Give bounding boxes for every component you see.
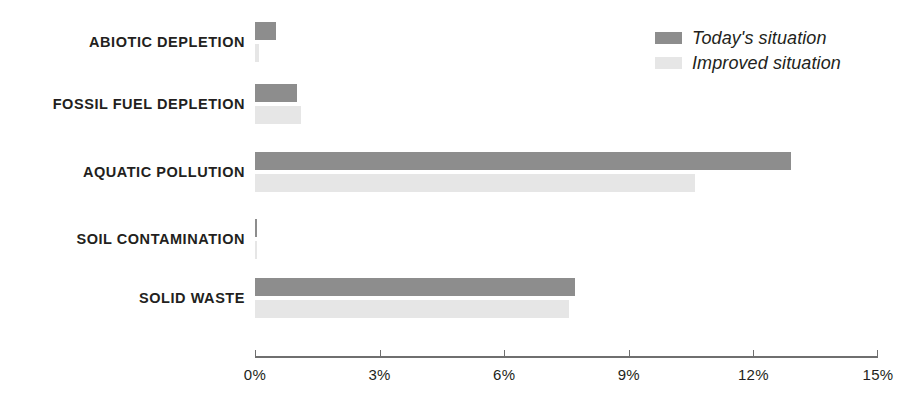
axis-tick (255, 350, 256, 358)
bar-group (255, 22, 276, 62)
axis-tick-label: 9% (618, 366, 640, 383)
bar-today[interactable] (255, 152, 791, 170)
chart-category-row: SOLID WASTE (0, 278, 910, 318)
chart-category-row: FOSSIL FUEL DEPLETION (0, 84, 910, 124)
axis-tick-label: 0% (244, 366, 266, 383)
bar-group (255, 219, 257, 259)
legend-swatch-icon (655, 32, 682, 44)
bar-improved[interactable] (255, 300, 569, 318)
bar-improved[interactable] (255, 241, 257, 259)
legend-item[interactable]: Improved situation (655, 55, 841, 71)
bar-improved[interactable] (255, 174, 695, 192)
bar-group (255, 152, 791, 192)
category-label: ABIOTIC DEPLETION (0, 34, 245, 50)
axis-tick-label: 15% (863, 366, 894, 383)
legend-item-label: Improved situation (692, 54, 841, 72)
category-label: FOSSIL FUEL DEPLETION (0, 96, 245, 112)
category-label: SOLID WASTE (0, 290, 245, 306)
axis-tick-label: 12% (738, 366, 769, 383)
bar-group (255, 84, 301, 124)
chart-legend: Today's situationImproved situation (655, 30, 841, 71)
bar-improved[interactable] (255, 106, 301, 124)
bar-today[interactable] (255, 84, 297, 102)
chart-category-row: AQUATIC POLLUTION (0, 152, 910, 192)
bar-today[interactable] (255, 219, 257, 237)
axis-tick (380, 350, 381, 358)
x-axis (255, 356, 878, 358)
bar-improved[interactable] (255, 44, 259, 62)
axis-tick (877, 350, 878, 358)
legend-swatch-icon (655, 57, 682, 69)
bar-today[interactable] (255, 278, 575, 296)
axis-tick-label: 3% (368, 366, 390, 383)
axis-tick (504, 350, 505, 358)
category-label: SOIL CONTAMINATION (0, 231, 245, 247)
axis-tick (629, 350, 630, 358)
axis-tick (753, 350, 754, 358)
axis-tick-label: 6% (493, 366, 515, 383)
chart-category-row: SOIL CONTAMINATION (0, 219, 910, 259)
bar-chart: ABIOTIC DEPLETIONFOSSIL FUEL DEPLETIONAQ… (0, 0, 910, 395)
legend-item-label: Today's situation (692, 29, 827, 47)
bar-today[interactable] (255, 22, 276, 40)
category-label: AQUATIC POLLUTION (0, 164, 245, 180)
legend-item[interactable]: Today's situation (655, 30, 841, 46)
bar-group (255, 278, 575, 318)
